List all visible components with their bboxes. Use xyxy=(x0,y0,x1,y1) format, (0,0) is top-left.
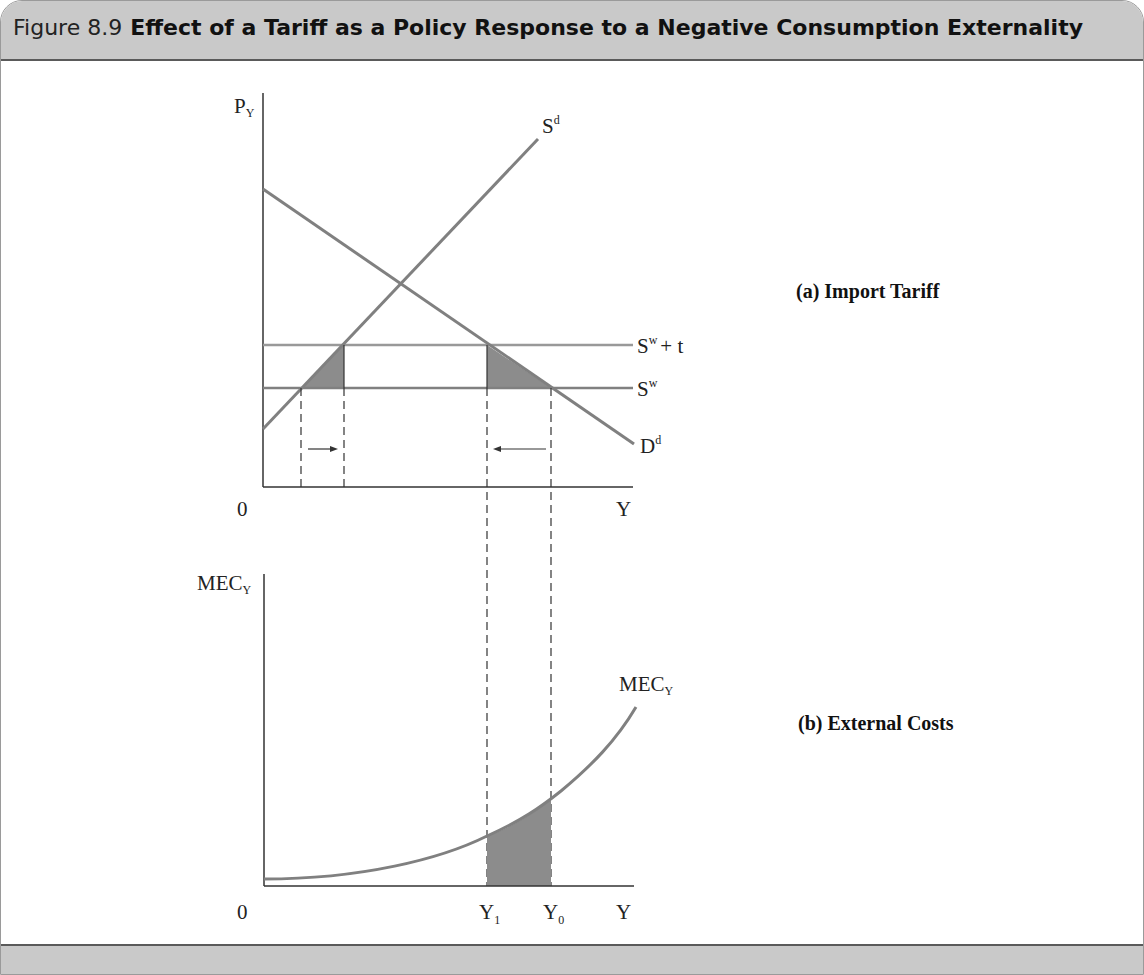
figure-frame: Figure 8.9Effect of a Tariff as a Policy… xyxy=(0,0,1144,975)
dashed-guides xyxy=(301,388,551,886)
tick-y1: Y1 xyxy=(479,900,500,927)
mec-curve xyxy=(264,707,636,879)
x-axis-label-a: Y xyxy=(616,497,631,521)
y-axis-label-a: PY xyxy=(234,94,255,120)
arrow-right-icon xyxy=(308,446,338,452)
arrow-left-icon xyxy=(493,446,546,452)
origin-label-a: 0 xyxy=(237,497,248,521)
external-cost-area xyxy=(487,799,551,886)
tick-y0: Y0 xyxy=(543,900,564,927)
supply-curve-label: Sd xyxy=(542,113,560,138)
y-axis-label-b: MECY xyxy=(197,571,252,597)
panel-a-title: (a) Import Tariff xyxy=(796,280,940,303)
figure-footer xyxy=(1,944,1143,974)
x-axis-label-b: Y xyxy=(616,900,631,924)
domestic-demand-line xyxy=(263,189,634,444)
world-supply-tariff-label: Sw+ t xyxy=(637,333,683,358)
diagram-canvas: PY 0 Y Sd Sw+ t Sw Dd (a) Import Tariff … xyxy=(1,1,1144,975)
panel-b-title: (b) External Costs xyxy=(798,712,954,735)
demand-curve-label: Dd xyxy=(640,433,661,458)
mec-curve-label: MECY xyxy=(619,672,674,698)
origin-label-b: 0 xyxy=(237,900,248,924)
panel-b: MECY 0 Y1 Y0 Y MECY (b) External Costs xyxy=(197,571,954,927)
world-supply-label: Sw xyxy=(637,376,658,401)
